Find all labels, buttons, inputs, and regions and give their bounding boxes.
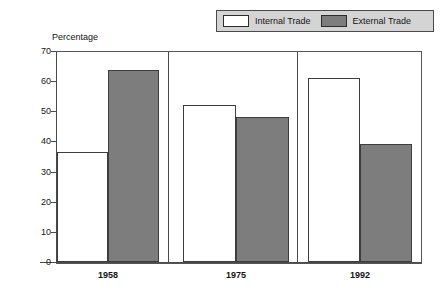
bar-1958-external-trade <box>108 70 159 262</box>
bar-group-container <box>0 0 446 262</box>
bar-1975-external-trade <box>236 117 289 262</box>
x-axis-label-1975: 1975 <box>226 270 246 280</box>
bar-1992-external-trade <box>360 144 412 262</box>
y-tick-mark-0 <box>51 262 56 263</box>
x-axis-label-1992: 1992 <box>350 270 370 280</box>
bar-1992-internal-trade <box>308 78 360 262</box>
bar-1975-internal-trade <box>183 105 236 262</box>
x-axis-baseline <box>40 262 421 263</box>
bar-1958-internal-trade <box>57 152 108 262</box>
x-axis-label-1958: 1958 <box>98 270 118 280</box>
